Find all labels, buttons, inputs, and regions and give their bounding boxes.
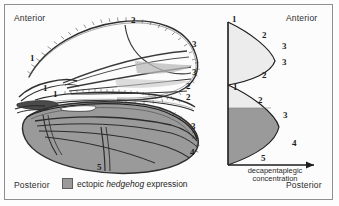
- graph-label-3c: 3: [283, 111, 288, 120]
- legend-text-after: expression: [144, 179, 187, 189]
- graph-label-2c: 2: [258, 96, 263, 105]
- wing-label-3a: 3: [192, 40, 197, 49]
- legend-text-gene: hedgehog: [106, 179, 144, 189]
- wing-label-2a: 2: [131, 16, 136, 25]
- wing-label-1b: 1: [43, 84, 48, 93]
- graph-label-2a: 2: [262, 31, 267, 40]
- wing-label-3b: 3: [192, 68, 197, 77]
- legend: ectopic hedgehog expression: [62, 178, 188, 189]
- wing-label-2b: 2: [186, 82, 191, 91]
- graph-label-1a: 1: [232, 15, 237, 24]
- axis-caption: decapentaplegic concentration: [232, 167, 318, 184]
- figure-root: 1 2 3 3 2 2 1 1 3 4 5: [0, 0, 339, 206]
- wing-label-4a: 4: [190, 148, 195, 157]
- graph-label-2b: 2: [262, 71, 267, 80]
- legend-text-before: ectopic: [77, 179, 106, 189]
- wing-label-3c: 3: [191, 122, 196, 131]
- graph-label-3b: 3: [282, 58, 287, 67]
- legend-swatch-icon: [62, 178, 73, 189]
- graph-label-4a: 4: [292, 139, 297, 148]
- wing-label-5a: 5: [97, 163, 102, 172]
- lower-wing-group: [15, 102, 200, 174]
- wing-label-1c: 1: [53, 90, 58, 99]
- axis-caption-line2: concentration: [232, 175, 318, 183]
- orientation-label-posterior-left: Posterior: [14, 180, 50, 190]
- graph-label-1b: 1: [233, 83, 238, 92]
- upper-wing-group: [17, 17, 200, 111]
- wing-label-1a: 1: [30, 54, 35, 63]
- legend-label: ectopic hedgehog expression: [77, 179, 188, 189]
- orientation-label-anterior-left: Anterior: [14, 13, 45, 23]
- graph-label-5a: 5: [261, 154, 266, 163]
- wing-panel: 1 2 3 3 2 2 1 1 3 4 5: [5, 5, 213, 199]
- wing-drawing-svg: [5, 5, 213, 199]
- graph-label-3a: 3: [282, 42, 287, 51]
- wing-label-2c: 2: [186, 93, 191, 102]
- orientation-label-anterior-right: Anterior: [286, 13, 317, 23]
